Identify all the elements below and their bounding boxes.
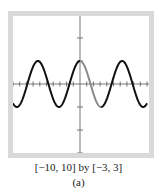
viewing-window-caption: [−10, 10] by [−3, 3] xyxy=(0,161,157,174)
axes xyxy=(13,16,149,153)
graph-window-frame xyxy=(8,11,154,158)
cosine-graph xyxy=(13,16,149,153)
plot-area xyxy=(13,16,149,153)
figure-label: (a) xyxy=(0,176,157,189)
